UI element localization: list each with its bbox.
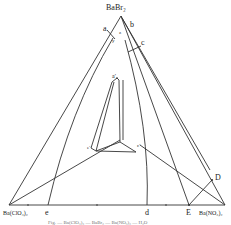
- line-apex-E: [121, 16, 189, 205]
- point-label-c: c: [141, 39, 145, 47]
- prism-inner: [96, 82, 114, 151]
- line-right-corner: [140, 145, 225, 205]
- point-label-D: D: [215, 174, 221, 182]
- point-label-y: y: [112, 38, 115, 43]
- line-left-corner: [9, 140, 120, 205]
- point-label-a: a: [103, 25, 107, 33]
- point-label-c-prime: c′: [137, 143, 140, 148]
- curve-d: [125, 40, 147, 205]
- edge-left: [9, 16, 121, 205]
- vertex-label-bottom-left: Ba(ClO₃)₂: [3, 210, 28, 216]
- point-label-e-prime: e′: [87, 145, 90, 150]
- ternary-diagram: [0, 0, 231, 225]
- line-E-D: [189, 180, 212, 205]
- point-label-b: b: [130, 21, 134, 29]
- point-label-z: z: [119, 30, 121, 35]
- prism-right: [117, 78, 136, 152]
- line-apex-D: [122, 18, 210, 170]
- point-label-E: E: [186, 209, 191, 217]
- vertex-label-top: BaBr₂: [106, 4, 126, 12]
- prism-base: [96, 151, 136, 152]
- edge-right: [121, 16, 225, 205]
- point-label-e: e: [45, 209, 49, 217]
- vertex-label-bottom-right: Ba(NO₃)₂: [199, 210, 223, 216]
- point-label-a-prime: a′: [112, 73, 116, 79]
- figure-caption: Fig. — Ba(ClO₃)₂ — BaBr₂ — Ba(NO₃)₂ — H₂…: [48, 220, 147, 225]
- point-label-d: d: [145, 209, 149, 217]
